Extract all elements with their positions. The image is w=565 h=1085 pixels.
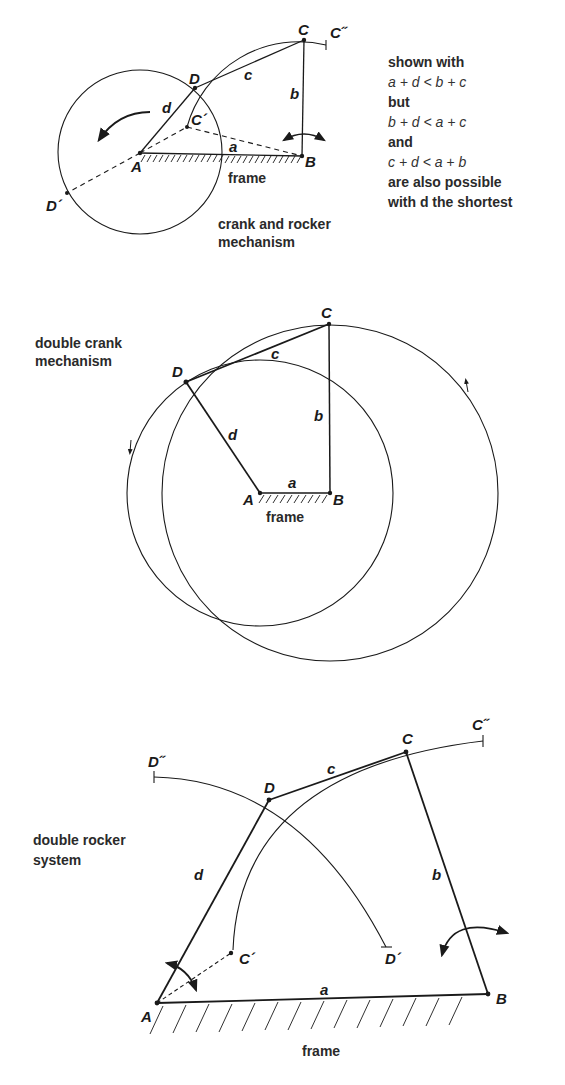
point-d2-label: D˝ bbox=[148, 753, 167, 770]
link-c-label: c bbox=[327, 760, 336, 777]
link-b bbox=[329, 324, 330, 493]
link-a-label: a bbox=[320, 981, 328, 998]
link-b-label: b bbox=[432, 866, 441, 883]
point-a-label: A bbox=[130, 158, 142, 175]
double-crank-caption-2: mechanism bbox=[35, 353, 112, 369]
link-a-label: a bbox=[288, 474, 296, 491]
note-line-6: c + d < a + b bbox=[388, 152, 512, 172]
link-d bbox=[186, 382, 260, 493]
point-d-label: D bbox=[189, 70, 200, 87]
note-line-1: shown with bbox=[388, 52, 512, 72]
link-b bbox=[302, 40, 304, 156]
direction-arrow-right-icon bbox=[466, 381, 468, 392]
double-rocker-caption-2: system bbox=[33, 852, 81, 868]
point-c2-label: C˝ bbox=[330, 24, 349, 41]
point-c1-label: C´ bbox=[239, 950, 256, 967]
note-line-4: b + d < a + c bbox=[388, 112, 512, 132]
link-d-label: d bbox=[194, 866, 204, 883]
point-d1-label: D´ bbox=[46, 197, 63, 214]
link-c-label: c bbox=[271, 345, 280, 362]
point-c2-label: C˝ bbox=[472, 716, 491, 733]
double-rocker-caption-1: double rocker bbox=[33, 832, 126, 848]
rocker-arc bbox=[187, 42, 326, 127]
frame-label: frame bbox=[266, 509, 304, 525]
rocker-swing-arrow-icon bbox=[284, 134, 324, 140]
note-line-5: and bbox=[388, 132, 512, 152]
link-c bbox=[186, 324, 329, 382]
point-b-label: B bbox=[305, 153, 316, 170]
point-c-label: C bbox=[321, 304, 333, 321]
frame-link-a bbox=[140, 153, 302, 156]
point-c1-label: C´ bbox=[191, 111, 208, 128]
rocker-b-arrow-icon bbox=[442, 927, 507, 955]
point-b-label: B bbox=[496, 990, 507, 1007]
double-rocker-diagram bbox=[150, 735, 507, 1034]
point-d1-label: D´ bbox=[385, 950, 402, 967]
crank-rotation-arrow-icon bbox=[99, 112, 150, 140]
note-line-3: but bbox=[388, 92, 512, 112]
point-d-label: D bbox=[264, 779, 275, 796]
grashof-conditions-note: shown with a + d < b + c but b + d < a +… bbox=[388, 52, 512, 212]
note-line-8: with d the shortest bbox=[388, 192, 512, 212]
double-crank-caption-1: double crank bbox=[35, 335, 122, 351]
note-line-2: a + d < b + c bbox=[388, 72, 512, 92]
link-b bbox=[406, 752, 488, 994]
point-d-label: D bbox=[172, 363, 183, 380]
link-a-label: a bbox=[229, 138, 237, 155]
point-b-label: B bbox=[333, 491, 344, 508]
direction-arrow-left-icon bbox=[130, 440, 131, 452]
point-a-label: A bbox=[242, 491, 254, 508]
note-line-7: are also possible bbox=[388, 172, 512, 192]
d-swing-arc bbox=[154, 777, 386, 947]
point-c-label: C bbox=[298, 21, 310, 38]
link-c-label: c bbox=[244, 66, 253, 83]
link-d-label: d bbox=[228, 426, 238, 443]
crank-rocker-caption-1: crank and rocker bbox=[218, 216, 331, 232]
frame-label: frame bbox=[302, 1043, 340, 1059]
c-swing-arc bbox=[233, 741, 483, 950]
link-d-label: d bbox=[162, 99, 172, 116]
point-c-label: C bbox=[402, 730, 414, 747]
point-a-label: A bbox=[140, 1008, 152, 1025]
link-d bbox=[157, 800, 269, 1003]
link-c bbox=[269, 752, 406, 800]
link-b-label: b bbox=[314, 407, 323, 424]
link-d bbox=[140, 88, 195, 153]
link-b-label: b bbox=[290, 85, 299, 102]
crank-rocker-caption-2: mechanism bbox=[218, 234, 295, 250]
frame-label: frame bbox=[228, 170, 266, 186]
